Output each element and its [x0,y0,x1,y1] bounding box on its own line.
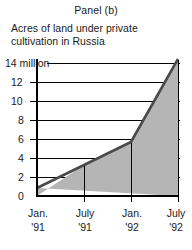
ytick-label-14: 14 million [5,57,50,69]
ytick-label-8: 8 [18,114,24,126]
xtick-label-july-92-line1: July [167,207,186,219]
xtick-label-jan-92-line1: Jan. [122,207,142,219]
chart-subtitle-line-1: Acres of land under private [11,22,138,34]
y-tick-labels: 14 million 12 10 8 6 4 2 0 [5,57,50,202]
xtick-label-july-91-line2: '91 [78,221,92,233]
ytick-label-4: 4 [18,152,24,164]
plot-area: 14 million 12 10 8 6 4 2 0 Jan. '91 July… [0,50,192,250]
xtick-label-jan-91-line2: '91 [31,221,45,233]
chart-figure: Panel (b) Acres of land under private cu… [0,0,192,250]
xtick-label-july-91-line1: July [76,207,95,219]
panel-title: Panel (b) [0,4,192,16]
xtick-label-july-92-line2: '92 [169,221,183,233]
area-chart-svg: 14 million 12 10 8 6 4 2 0 Jan. '91 July… [0,50,192,250]
chart-subtitle-line-2: cultivation in Russia [11,35,105,47]
xtick-label-jan-91-line1: Jan. [28,207,48,219]
ytick-label-6: 6 [18,133,24,145]
ytick-label-10: 10 [11,95,23,107]
ytick-label-12: 12 [11,76,23,88]
chart-subtitle: Acres of land under private cultivation … [11,22,186,47]
ytick-label-2: 2 [18,171,24,183]
xtick-label-jan-92-line2: '92 [125,221,139,233]
x-tick-labels: Jan. '91 July '91 Jan. '92 July '92 [28,207,186,233]
ytick-label-0: 0 [18,190,24,202]
